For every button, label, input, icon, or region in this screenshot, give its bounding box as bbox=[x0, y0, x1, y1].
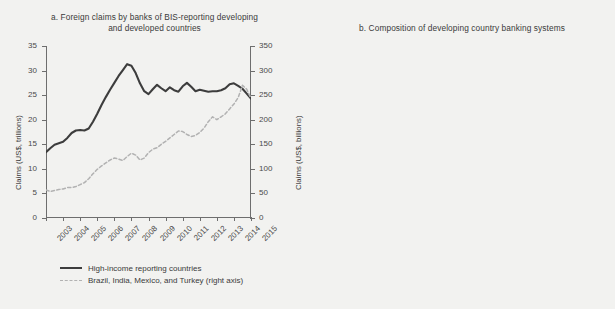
y2-tick-label: 0 bbox=[259, 213, 283, 222]
x-tick-label: 2009 bbox=[158, 224, 177, 243]
x-tick-label: 2010 bbox=[175, 224, 194, 243]
x-tick-label: 2007 bbox=[124, 224, 143, 243]
panel-a-title-line2: and developed countries bbox=[22, 23, 287, 34]
x-tick-label: 2011 bbox=[192, 224, 211, 243]
panel-a-plot-area: 05101520253035 050100150200250300350 200… bbox=[46, 46, 251, 218]
x-tick bbox=[251, 217, 252, 221]
y2-tick-label: 100 bbox=[259, 164, 283, 173]
panel-b-title: b. Composition of developing country ban… bbox=[317, 23, 607, 34]
y2-tick-label: 250 bbox=[259, 90, 283, 99]
panel-a-legend: High-income reporting countries Brazil, … bbox=[60, 262, 243, 286]
solid-line-icon bbox=[60, 267, 82, 269]
figure-container: a. Foreign claims by banks of BIS-report… bbox=[0, 0, 615, 309]
panel-a-line-chart: a. Foreign claims by banks of BIS-report… bbox=[0, 0, 307, 309]
x-tick-label: 2003 bbox=[55, 224, 74, 243]
legend-item-bimt: Brazil, India, Mexico, and Turkey (right… bbox=[60, 274, 243, 286]
panel-b-bar-chart: b. Composition of developing country ban… bbox=[307, 0, 615, 309]
dashed-line-icon bbox=[60, 280, 82, 281]
panel-a-title-line1: a. Foreign claims by banks of BIS-report… bbox=[22, 12, 287, 23]
y2-tick-label: 150 bbox=[259, 139, 283, 148]
legend-label-bimt: Brazil, India, Mexico, and Turkey (right… bbox=[88, 276, 243, 285]
series-line-0 bbox=[46, 64, 251, 152]
x-tick-label: 2004 bbox=[72, 224, 91, 243]
y-tick-label: 35 bbox=[15, 41, 37, 50]
legend-item-high-income: High-income reporting countries bbox=[60, 262, 243, 274]
y-tick-label: 15 bbox=[15, 139, 37, 148]
y-tick-label: 0 bbox=[15, 213, 37, 222]
x-tick-label: 2008 bbox=[141, 224, 160, 243]
y-tick-label: 30 bbox=[15, 66, 37, 75]
x-tick-label: 2005 bbox=[89, 224, 108, 243]
y2-tick-label: 350 bbox=[259, 41, 283, 50]
x-tick-label: 2014 bbox=[243, 224, 262, 243]
panel-a-series-lines bbox=[46, 46, 251, 218]
panel-a-y-axis-title-right: Claims (US$, billions) bbox=[294, 115, 303, 190]
y2-tick-label: 200 bbox=[259, 115, 283, 124]
x-tick-label: 2015 bbox=[260, 224, 279, 243]
y-tick-label: 5 bbox=[15, 188, 37, 197]
panel-a-title: a. Foreign claims by banks of BIS-report… bbox=[22, 12, 287, 34]
panel-a-y-axis-title: Claims (US$, trillions) bbox=[14, 115, 23, 190]
x-tick-label: 2013 bbox=[226, 224, 245, 243]
y2-tick-label: 50 bbox=[259, 188, 283, 197]
y-tick-label: 20 bbox=[15, 115, 37, 124]
y-tick-label: 25 bbox=[15, 90, 37, 99]
legend-label-high-income: High-income reporting countries bbox=[88, 264, 201, 273]
series-line-1 bbox=[46, 85, 251, 191]
y-tick-label: 10 bbox=[15, 164, 37, 173]
x-tick-label: 2006 bbox=[106, 224, 125, 243]
x-tick-label: 2012 bbox=[209, 224, 228, 243]
y2-tick-label: 300 bbox=[259, 66, 283, 75]
